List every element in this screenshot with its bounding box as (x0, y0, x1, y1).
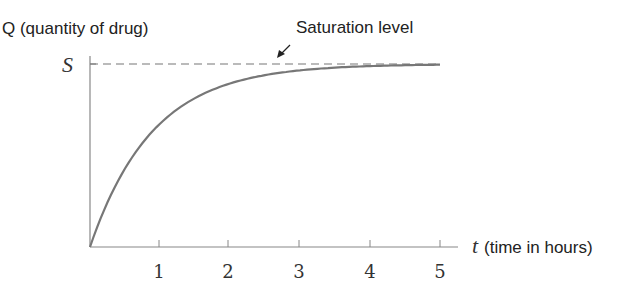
y-axis-label: Q (quantity of drug) (2, 19, 148, 38)
saturation-annotation: Saturation level (296, 18, 413, 37)
x-tick-label: 1 (153, 261, 164, 282)
quantity-curve (90, 65, 440, 247)
x-tick-label: 3 (293, 261, 304, 282)
x-tick-label: 4 (364, 261, 375, 282)
saturation-tick-label: S (62, 52, 73, 77)
x-tick-label: 5 (434, 261, 445, 282)
chart: Q (quantity of drug) S 1 2 3 4 5 t (time… (0, 0, 619, 294)
x-axis-label: (time in hours) (484, 238, 593, 257)
x-ticks (159, 240, 440, 247)
x-tick-label: 2 (222, 261, 233, 282)
x-axis-variable: t (472, 233, 479, 258)
